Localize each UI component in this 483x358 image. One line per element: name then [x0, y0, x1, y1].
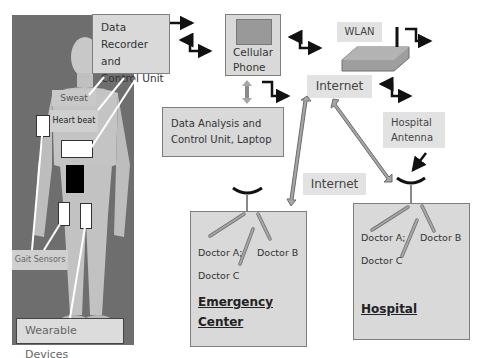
- connector-arrows: [0, 0, 483, 358]
